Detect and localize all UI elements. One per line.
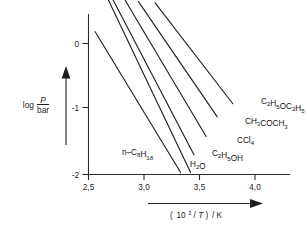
x-axis-title-exponent: 3	[188, 209, 192, 216]
chart-figure: log P bar 0 -1 -2	[0, 0, 306, 228]
y-axis-ticks	[83, 44, 89, 175]
series-line-H2O	[108, 0, 190, 172]
x-axis-title-slash: /	[194, 211, 197, 220]
y-axis-tick-labels: 0 -1 -2	[72, 40, 80, 180]
series-label-n-C8H18: n–C8H18	[122, 148, 154, 161]
x-axis-direction-arrow	[148, 199, 263, 208]
x-axis-title: ( 10 3 / T ) / K	[170, 208, 223, 220]
x-axis-title-open: (	[170, 211, 173, 220]
x-axis-tick-labels: 2,5 3,0 3,5 4,0	[83, 183, 261, 192]
x-tick-label-4-0: 4,0	[249, 183, 261, 192]
y-axis-direction-arrow	[62, 66, 71, 145]
x-axis-ticks	[89, 175, 256, 181]
y-tick-label-0: 0	[74, 40, 79, 49]
series-line-C2H5OC2H5	[155, 3, 233, 104]
plot-area: 0 -1 -2 2,5 3,0 3,5 4,0 (	[0, 0, 306, 228]
series-labels: C2H5OC2H5CH3COCH3CCl4C2H5OHH2On–C8H18	[122, 97, 305, 171]
x-axis-title-base: 10	[177, 211, 187, 220]
x-tick-label-3-0: 3,0	[138, 183, 150, 192]
series-label-C2H5OC2H5: C2H5OC2H5	[261, 97, 305, 114]
series-label-H2O: H2O	[190, 160, 206, 171]
series-label-C2H5OH: C2H5OH	[212, 149, 243, 163]
x-axis-title-unit: / K	[212, 211, 223, 220]
series-label-CCl4: CCl4	[237, 136, 255, 146]
y-tick-label-minus2: -2	[72, 171, 80, 180]
series-label-CH3COCH3: CH3COCH3	[245, 117, 288, 130]
x-axis-title-variable: T	[198, 211, 204, 220]
x-axis-title-close: )	[205, 211, 208, 220]
x-tick-label-2-5: 2,5	[83, 183, 95, 192]
series-line-CH3COCH3	[138, 2, 217, 117]
series-lines	[95, 0, 233, 173]
y-tick-label-minus1: -1	[72, 104, 80, 113]
x-tick-label-3-5: 3,5	[194, 183, 206, 192]
series-line-CCl4	[125, 0, 206, 136]
